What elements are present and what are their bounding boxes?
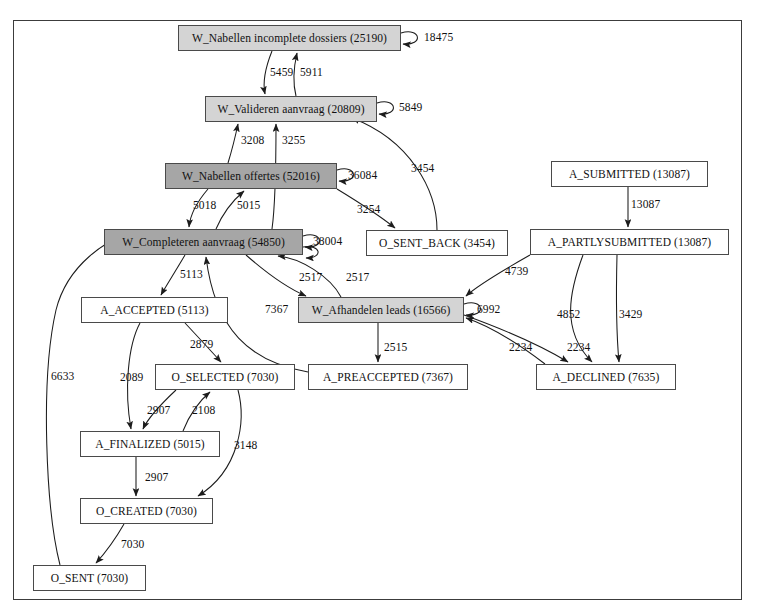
edge-label-w_valideren-to-w_nabellen_incomplete: 5911 [300,66,323,78]
edge-label-a_partlysubmitted-to-a_declined: 3429 [619,308,642,320]
edge-label-a_partlysubmitted-to-w_afhandelen: 4739 [505,265,528,277]
edge-label-a_accepted-to-a_finalized: 2089 [120,371,143,383]
edge-label-w_afhandelen-to-a_declined: 2234 [509,341,532,353]
edge-label-w_completeren-to-w_nabellen_offertes: 5015 [237,199,260,211]
edge-label-w_completeren-to-w_valideren: 3255 [282,134,305,146]
edge-label-w_nabellen_offertes-to-o_sent_back: 3254 [357,203,380,215]
edge-label-w_valideren-to-w_valideren: 5849 [399,101,422,113]
edge-label-a_preaccepted-to-w_completeren: 7367 [265,303,288,315]
edge-label-w_afhandelen-to-w_afhandelen: 6992 [477,303,500,315]
edge-label-w_nabellen_offertes-to-w_nabellen_offertes: 36084 [348,169,377,181]
edge-label-o_sent-to-w_completeren: 6633 [51,370,74,382]
edge-label-w_nabellen_offertes-to-w_completeren: 5018 [193,199,216,211]
edge-label-w_completeren-to-a_accepted: 5113 [180,268,203,280]
edge-label-w_afhandelen-to-w_completeren: 2517 [346,271,369,283]
edge-label-o_selected-to-a_finalized: 2907 [147,404,170,416]
edge-label-a_declined-to-w_afhandelen: 2234 [567,341,590,353]
graph-edge-labels-layer: 1847554595911584932083255345436084501850… [0,0,758,613]
diagram-page: W_Nabellen incomplete dossiers (25190)W_… [0,0,758,613]
edge-label-w_nabellen_incomplete-to-w_valideren: 5459 [270,66,293,78]
edge-label-w_completeren-to-w_completeren: 38004 [313,235,342,247]
edge-label-a_partlysubmitted-to-a_declined: 4852 [557,308,580,320]
edge-label-w_nabellen_offertes-to-w_valideren: 3208 [241,134,264,146]
edge-label-a_submitted-to-a_partlysubmitted: 13087 [631,198,660,210]
edge-label-a_finalized-to-o_created: 2907 [145,471,168,483]
edge-label-w_nabellen_incomplete-to-w_nabellen_incomplete: 18475 [424,31,453,43]
edge-label-a_finalized-to-o_selected: 2108 [192,404,215,416]
edge-label-o_selected-to-o_created: 3148 [234,439,257,451]
edge-label-w_afhandelen-to-a_preaccepted: 2515 [384,341,407,353]
edge-label-a_accepted-to-o_selected: 2879 [190,338,213,350]
edge-label-o_sent_back-to-w_valideren: 3454 [411,162,434,174]
edge-label-w_completeren-to-w_afhandelen: 2517 [299,271,322,283]
edge-label-o_created-to-o_sent: 7030 [121,538,144,550]
